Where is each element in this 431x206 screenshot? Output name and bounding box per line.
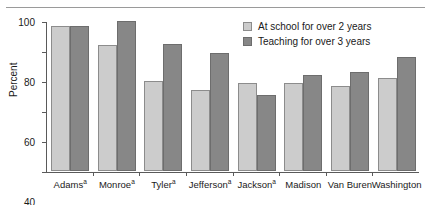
x-axis-tick: [139, 172, 140, 176]
bar-teaching: [257, 95, 276, 172]
y-axis-line: [46, 22, 47, 173]
top-divider-rule: [6, 7, 425, 8]
bar-teaching: [117, 21, 136, 171]
legend-item: Teaching for over 3 years: [243, 34, 371, 49]
x-axis-category-label: Adamsa: [54, 179, 87, 190]
bar-at-school: [238, 83, 257, 172]
y-axis-tick: 60: [42, 82, 46, 83]
bar-at-school: [98, 45, 117, 171]
x-axis-tick: [279, 172, 280, 176]
bar-at-school: [191, 90, 210, 171]
bar-group: [51, 21, 89, 171]
footnote-marker: a: [131, 178, 135, 185]
y-axis-tick-label: 100: [18, 17, 35, 28]
bar-group: [191, 21, 229, 171]
bar-teaching: [210, 53, 229, 172]
y-axis-tick: 100: [42, 22, 46, 23]
bar-teaching: [303, 75, 322, 171]
bar-teaching: [350, 72, 369, 171]
x-axis-category-label: Monroea: [99, 179, 135, 190]
bar-group: [378, 21, 416, 171]
bar-group: [98, 21, 136, 171]
x-axis-category-label: Van Buren: [328, 179, 372, 190]
x-axis-category-label: Jeffersona: [189, 179, 232, 190]
x-axis-category-label: Jacksona: [237, 179, 275, 190]
legend-swatch-at-school: [243, 22, 252, 31]
legend-item-label: At school for over 2 years: [258, 21, 371, 32]
bar-at-school: [284, 83, 303, 172]
x-axis-category-label: Madison: [285, 179, 321, 190]
bar-group: [144, 21, 182, 171]
x-axis-category-label: Tylera: [151, 179, 175, 190]
footnote-marker: a: [228, 178, 232, 185]
bar-at-school: [378, 78, 397, 171]
y-axis-title: Percent: [8, 63, 19, 97]
bar-teaching: [163, 44, 182, 172]
bar-teaching: [70, 26, 89, 172]
legend-item: At school for over 2 years: [243, 19, 371, 34]
x-axis-category-label: Washington: [372, 179, 422, 190]
x-axis-tick: [233, 172, 234, 176]
footnote-marker: a: [172, 178, 176, 185]
chart-legend: At school for over 2 yearsTeaching for o…: [243, 19, 371, 49]
bar-at-school: [144, 81, 163, 171]
y-axis-tick: 40: [42, 112, 46, 113]
x-axis-tick: [372, 172, 373, 176]
bar-at-school: [331, 86, 350, 172]
y-axis-tick: 0: [42, 172, 46, 173]
footnote-marker: a: [83, 178, 87, 185]
legend-item-label: Teaching for over 3 years: [258, 36, 370, 47]
legend-swatch-teaching: [243, 37, 252, 46]
y-axis-tick-label: 40: [24, 197, 35, 206]
bar-teaching: [397, 57, 416, 171]
y-axis-tick: 80: [42, 52, 46, 53]
y-axis-tick-label: 80: [24, 77, 35, 88]
bar-at-school: [51, 26, 70, 172]
y-axis-tick-label: 60: [24, 137, 35, 148]
x-axis-tick: [326, 172, 327, 176]
bar-chart-figure: Percent 020406080100 AdamsaMonroeaTylera…: [0, 0, 431, 205]
x-axis-tick: [186, 172, 187, 176]
y-axis-tick: 20: [42, 142, 46, 143]
x-axis-tick: [93, 172, 94, 176]
footnote-marker: a: [272, 178, 276, 185]
